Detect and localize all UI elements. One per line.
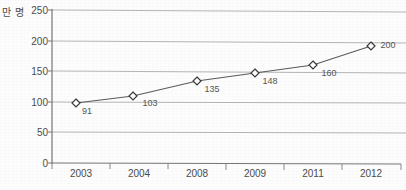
gridlines	[52, 10, 406, 133]
x-tick-2008: 2008	[186, 168, 208, 179]
plot-area	[0, 0, 406, 190]
data-label-2003: 91	[82, 106, 92, 116]
data-label-2009: 148	[262, 76, 277, 86]
x-tick-2009: 2009	[244, 168, 266, 179]
x-tick-2004: 2004	[128, 168, 150, 179]
x-tick-2011: 2011	[302, 168, 324, 179]
data-label-2008: 135	[204, 84, 219, 94]
data-label-2012: 200	[380, 40, 395, 50]
data-label-2011: 160	[321, 68, 336, 78]
data-label-2004: 103	[142, 98, 157, 108]
x-tick-2003: 2003	[70, 168, 92, 179]
x-tick-2012: 2012	[360, 168, 382, 179]
line-chart: 만 명 250 200 150 100 50 0	[0, 0, 406, 190]
x-axis-line	[52, 163, 401, 164]
